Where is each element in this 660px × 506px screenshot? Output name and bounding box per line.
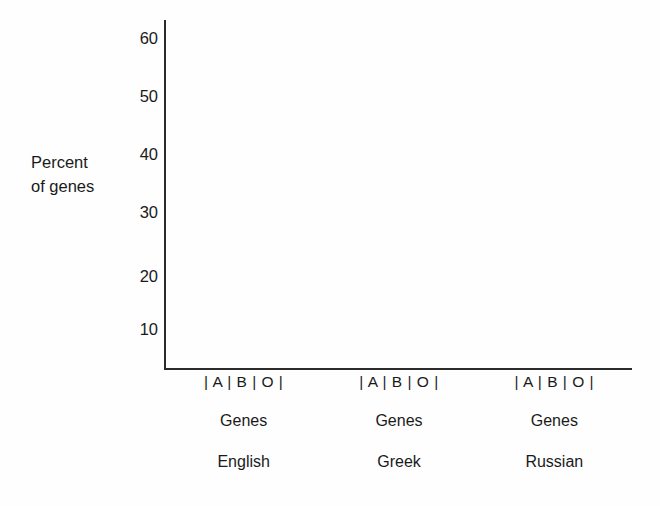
y-tick-label-50: 50	[10, 87, 158, 105]
plot-area	[166, 20, 632, 368]
x-group-label-greek: Genes	[375, 411, 422, 430]
y-tick-label-40: 40	[10, 145, 158, 163]
y-tick-label-60: 60	[10, 29, 158, 47]
x-group-label-english: Genes	[220, 411, 267, 430]
x-tick-row-english: | A | B | O |	[204, 372, 283, 392]
x-group-population-greek: Greek	[377, 452, 421, 471]
y-tick-label-30: 30	[10, 203, 158, 221]
chart-figure: Percent of genes 60 50 40 30 20 10 | A |…	[0, 0, 660, 506]
y-axis-tick-labels: 60 50 40 30 20 10	[0, 0, 158, 506]
x-group-population-russian: Russian	[525, 452, 583, 471]
x-tick-row-greek: | A | B | O |	[359, 372, 438, 392]
x-group-greek: | A | B | O | Genes Greek	[321, 372, 476, 492]
x-group-english: | A | B | O | Genes English	[166, 372, 321, 492]
y-tick-label-10: 10	[10, 320, 158, 338]
x-group-population-english: English	[217, 452, 269, 471]
x-axis-groups: | A | B | O | Genes English | A | B | O …	[166, 372, 632, 492]
x-axis-line	[164, 368, 632, 370]
x-tick-row-russian: | A | B | O |	[515, 372, 594, 392]
x-group-russian: | A | B | O | Genes Russian	[477, 372, 632, 492]
y-tick-label-20: 20	[10, 267, 158, 285]
x-group-label-russian: Genes	[531, 411, 578, 430]
